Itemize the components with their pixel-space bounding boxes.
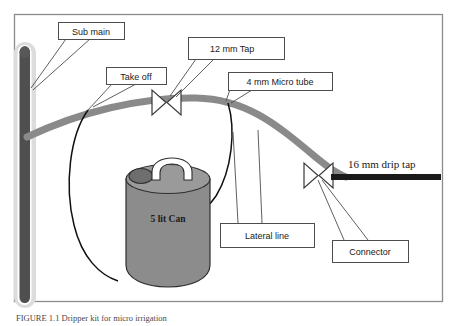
- label-16-mm-drip-tap: 16 mm drip tap: [348, 158, 416, 170]
- irrigation-dripper-kit-figure: 5 lit Can: [0, 0, 457, 326]
- can-label: 5 lit Can: [151, 214, 187, 224]
- callout-12-mm-tap: 12 mm Tap: [189, 38, 285, 60]
- callout-label-lateral-line: Lateral line: [245, 231, 289, 241]
- callout-label-connector: Connector: [349, 247, 391, 257]
- diagram-canvas: 5 lit Can: [0, 0, 457, 326]
- five-litre-can: 5 lit Can: [126, 158, 210, 287]
- callout-label-sub-main: Sub main: [72, 27, 110, 37]
- callout-label-take-off: Take off: [120, 72, 152, 82]
- sub-main-pipe: [14, 42, 36, 308]
- callout-4-mm-micro-tube: 4 mm Micro tube: [229, 73, 333, 91]
- figure-caption: FIGURE 1.1 Dripper kit for micro irrigat…: [16, 313, 168, 323]
- callout-label-4-mm-micro-tube: 4 mm Micro tube: [246, 77, 313, 87]
- callout-sub-main: Sub main: [59, 23, 125, 40]
- callout-connector: Connector: [333, 241, 409, 263]
- callout-take-off: Take off: [107, 68, 167, 85]
- callout-lateral-line: Lateral line: [221, 224, 315, 248]
- callout-label-12-mm-tap: 12 mm Tap: [210, 44, 254, 54]
- can-cap: [129, 169, 153, 184]
- drip-tap-pipe: [331, 174, 441, 180]
